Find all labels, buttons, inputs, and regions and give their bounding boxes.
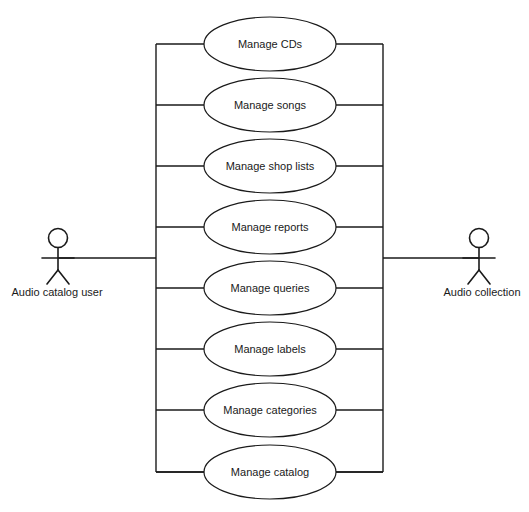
use-case-label: Manage songs [234,99,307,111]
use-case-diagram: Manage CDs Manage songs Manage shop list… [0,0,529,512]
actor-right-leg-line [479,270,490,284]
use-case-manage-labels[interactable]: Manage labels [204,322,336,376]
actor-label: Audio collection [443,286,520,298]
use-case-label: Manage labels [234,343,306,355]
use-case-label: Manage reports [231,221,309,233]
actor-right-leg-line [58,270,69,284]
use-case-manage-shop-lists[interactable]: Manage shop lists [204,139,336,193]
use-case-label: Manage shop lists [226,160,315,172]
actor-audio-collection[interactable]: Audio collection [443,229,520,298]
use-case-label: Manage catalog [231,466,309,478]
use-case-manage-categories[interactable]: Manage categories [204,383,336,437]
use-case-manage-reports[interactable]: Manage reports [204,200,336,254]
use-case-manage-songs[interactable]: Manage songs [204,78,336,132]
use-case-label: Manage CDs [238,38,303,50]
use-case-manage-cds[interactable]: Manage CDs [204,17,336,71]
actor-head-icon [49,229,68,248]
use-case-label: Manage categories [223,404,317,416]
diagram-canvas: Manage CDs Manage songs Manage shop list… [0,0,529,512]
actor-left-leg-line [47,270,58,284]
use-case-manage-catalog[interactable]: Manage catalog [204,445,336,499]
actor-left-leg-line [468,270,479,284]
use-case-label: Manage queries [231,282,310,294]
actor-audio-catalog-user[interactable]: Audio catalog user [11,229,102,298]
actor-label: Audio catalog user [11,286,102,298]
actor-head-icon [470,229,489,248]
use-case-manage-queries[interactable]: Manage queries [204,261,336,315]
